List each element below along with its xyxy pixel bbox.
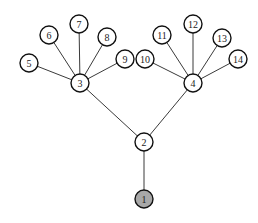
node-10: 10 (136, 50, 154, 68)
edge-2-3 (80, 83, 144, 142)
node-13: 13 (213, 29, 231, 47)
node-label: 7 (77, 19, 82, 30)
node-label: 10 (140, 54, 150, 65)
node-5: 5 (20, 54, 38, 72)
node-label: 8 (105, 32, 110, 43)
node-2: 2 (135, 133, 153, 151)
node-6: 6 (40, 26, 58, 44)
node-label: 4 (191, 78, 196, 89)
node-label: 2 (142, 137, 147, 148)
node-label: 13 (217, 33, 227, 44)
node-label: 11 (157, 30, 167, 41)
edge-2-4 (144, 83, 193, 142)
edges-layer (29, 24, 238, 199)
node-1: 1 (135, 190, 153, 208)
node-12: 12 (184, 15, 202, 33)
node-label: 3 (78, 78, 83, 89)
nodes-layer: 1234567891011121314 (20, 15, 247, 208)
tree-diagram: 1234567891011121314 (0, 0, 258, 223)
node-4: 4 (184, 74, 202, 92)
node-label: 12 (188, 19, 198, 30)
node-7: 7 (70, 15, 88, 33)
node-8: 8 (98, 28, 116, 46)
node-label: 9 (123, 54, 128, 65)
node-14: 14 (229, 50, 247, 68)
node-label: 14 (233, 54, 243, 65)
node-3: 3 (71, 74, 89, 92)
node-11: 11 (153, 26, 171, 44)
node-label: 5 (27, 58, 32, 69)
node-label: 1 (142, 194, 147, 205)
node-9: 9 (116, 50, 134, 68)
node-label: 6 (47, 30, 52, 41)
